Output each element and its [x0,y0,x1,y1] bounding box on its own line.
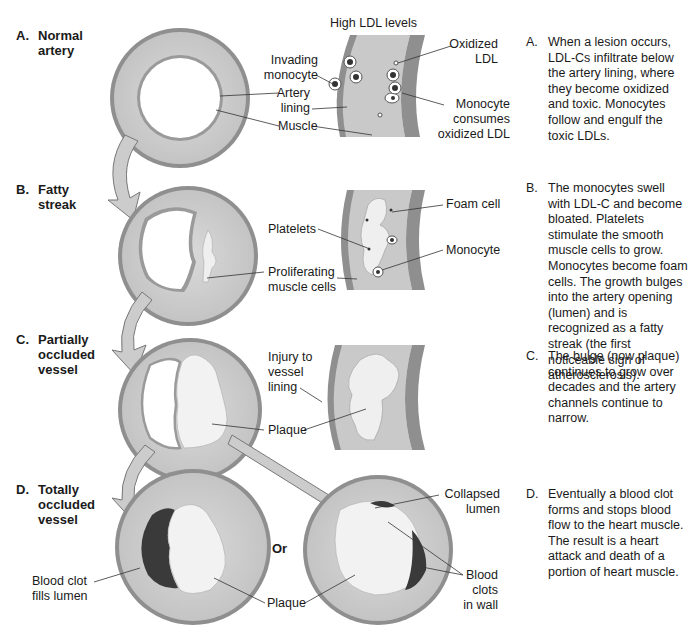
label-or: Or [272,541,287,556]
artery-a-inset [329,35,425,137]
description-d-text: Eventually a blood clot forms and stops … [548,487,683,579]
description-a: A. When a lesion occurs, LDL-Cs infiltra… [548,35,690,144]
label-proliferating-muscle-cells: Proliferating muscle cells [268,265,336,295]
label-platelets: Platelets [268,222,316,237]
label-plaque-d: Plaque [267,596,306,611]
label-muscle: Muscle [278,119,318,134]
description-a-text: When a lesion occurs, LDL-Cs infiltrate … [548,35,674,143]
description-d: D. Eventually a blood clot forms and sto… [548,487,690,581]
label-oxidized-ldl: Oxidized LDL [440,37,498,67]
label-artery-lining: Artery lining [270,86,310,116]
description-c: C. The bulge (now plaque) continues to g… [548,349,690,427]
description-d-letter: D. [526,487,539,503]
label-blood-clots-in-wall: Blood clots in wall [460,568,498,613]
stage-b-name: Fatty streak [38,182,76,212]
stage-a-name: Normal artery [38,28,83,58]
stage-a-letter: A. [16,28,29,43]
label-plaque-c: Plaque [268,423,307,438]
label-foam-cell: Foam cell [446,197,500,212]
stage-b-letter: B. [16,182,29,197]
inset-title-high-ldl: High LDL levels [330,16,417,31]
description-c-letter: C. [526,349,539,365]
label-monocyte-consumes: Monocyte consumes oxidized LDL [428,97,510,142]
artery-d-wall-clot-cross-section [303,475,453,625]
label-monocyte: Monocyte [446,243,500,258]
label-invading-monocyte: Invading monocyte [258,53,318,83]
description-c-text: The bulge (now plaque) continues to grow… [548,349,679,425]
stage-d-letter: D. [16,482,29,497]
label-blood-clot-fills-lumen: Blood clot fills lumen [32,574,88,604]
stage-d-name: Totally occluded vessel [38,482,95,527]
description-b-letter: B. [526,181,538,197]
label-collapsed-lumen: Collapsed lumen [440,487,500,517]
artery-d-clot-cross-section [115,469,271,625]
description-a-letter: A. [526,35,538,51]
stage-c-name: Partially occluded vessel [38,332,95,377]
artery-c-inset [328,345,426,450]
artery-b-inset [341,190,425,290]
label-injury-vessel-lining: Injury to vessel lining [268,350,312,395]
stage-c-letter: C. [16,332,29,347]
